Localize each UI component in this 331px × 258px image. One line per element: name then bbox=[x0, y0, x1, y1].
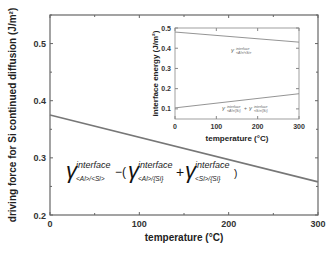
svg-text:): ) bbox=[234, 168, 237, 179]
svg-text:<Si>/{Si}: <Si>/{Si} bbox=[254, 109, 268, 113]
x-tick-label: 100 bbox=[132, 219, 147, 229]
y-tick-label: 0.4 bbox=[33, 96, 46, 106]
y-tick-label: 0.3 bbox=[161, 65, 171, 72]
svg-text:<Al>/{Si}: <Al>/{Si} bbox=[227, 109, 241, 113]
y-tick-label: 0.5 bbox=[161, 25, 171, 32]
x-tick-label: 0 bbox=[47, 219, 52, 229]
superscript: interface bbox=[138, 160, 173, 170]
subscript: <Al>/<Si> bbox=[76, 175, 105, 182]
chart-canvas: 01002003000.20.30.40.5temperature (°C)dr… bbox=[0, 0, 331, 258]
svg-text:−(: −( bbox=[115, 165, 126, 179]
subscript: <Al>/{Si} bbox=[138, 175, 164, 183]
x-tick-label: 300 bbox=[293, 123, 305, 130]
y-axis-label: driving force for Si continued diffusion… bbox=[7, 8, 18, 222]
svg-text:+: + bbox=[244, 105, 247, 111]
y-tick-label: 0.5 bbox=[33, 39, 46, 49]
x-tick-label: 100 bbox=[210, 123, 222, 130]
y-tick-label: 0.3 bbox=[33, 153, 46, 163]
y-tick-label: 0.2 bbox=[161, 85, 171, 92]
svg-text:<Al>/<Si>: <Al>/<Si> bbox=[236, 51, 251, 55]
y-tick-label: 0.1 bbox=[161, 105, 171, 112]
x-tick-label: 300 bbox=[310, 219, 325, 229]
x-tick-label: 200 bbox=[252, 123, 264, 130]
chart-figure: 01002003000.20.30.40.5temperature (°C)dr… bbox=[0, 0, 331, 258]
x-tick-label: 200 bbox=[221, 219, 236, 229]
superscript: interface bbox=[76, 160, 111, 170]
x-axis-label: temperature (°C) bbox=[206, 134, 269, 143]
y-axis-label: interface energy (J/m²) bbox=[151, 30, 160, 116]
y-tick-label: 0.4 bbox=[161, 45, 171, 52]
x-axis-label: temperature (°C) bbox=[145, 232, 223, 243]
svg-text:+: + bbox=[176, 164, 184, 180]
subscript: <Si>/{Si} bbox=[195, 175, 221, 183]
x-tick-label: 0 bbox=[173, 123, 177, 130]
y-tick-label: 0.2 bbox=[33, 211, 46, 221]
superscript: interface bbox=[195, 160, 230, 170]
